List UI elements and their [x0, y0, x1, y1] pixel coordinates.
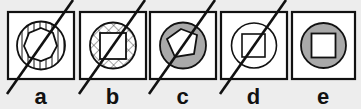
option-a[interactable]: a: [7, 0, 87, 109]
option-label: e: [291, 86, 355, 108]
square-icon: [312, 34, 336, 58]
option-d[interactable]: d: [220, 0, 300, 109]
option-e[interactable]: e: [291, 0, 361, 109]
option-b[interactable]: b: [79, 0, 159, 109]
option-c[interactable]: c: [149, 0, 229, 109]
option-label: a: [7, 86, 74, 108]
option-label: c: [149, 86, 216, 108]
option-label: d: [220, 86, 287, 108]
option-label: b: [79, 86, 146, 108]
